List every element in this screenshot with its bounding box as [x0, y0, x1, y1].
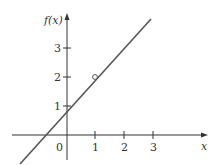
chart: 0 1 2 3 1 2 3 x f(x) — [0, 0, 216, 165]
x-axis-arrow-icon — [201, 133, 208, 138]
open-point — [93, 75, 98, 80]
y-tick-label-3: 3 — [54, 42, 61, 55]
y-tick-label-1: 1 — [54, 100, 61, 113]
y-tick-label-2: 2 — [54, 71, 61, 84]
y-axis-label: f(x) — [43, 14, 63, 27]
x-tick-label-1: 1 — [92, 141, 99, 154]
x-tick-label-0: 0 — [56, 141, 63, 154]
x-axis-label: x — [201, 140, 208, 153]
y-axis-arrow-icon — [65, 13, 70, 20]
x-tick-label-2: 2 — [121, 141, 128, 154]
function-line — [20, 19, 151, 164]
x-tick-label-3: 3 — [150, 141, 157, 154]
